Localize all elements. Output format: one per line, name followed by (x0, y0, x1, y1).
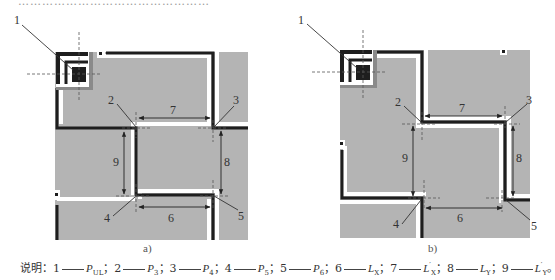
callout-2: 2 (395, 95, 401, 109)
caption-item-2: 2P3； (114, 262, 169, 275)
callout-9: 9 (402, 151, 408, 165)
callout-1: 1 (14, 13, 20, 27)
panel-b: 1 2 3 4 5 6 7 8 9 (298, 13, 537, 238)
callout-8: 8 (224, 155, 230, 169)
callout-4: 4 (104, 211, 110, 225)
caption-item-8: 8LY； (447, 262, 502, 275)
panel-b-label: b) (428, 242, 437, 254)
caption-prefix: 说明： (20, 262, 53, 275)
caption-item-9: 9L′Y。 (502, 262, 555, 275)
fiducial-mark-a (27, 32, 100, 100)
callout-4: 4 (393, 217, 399, 231)
callout-3: 3 (233, 93, 239, 107)
figure-caption: 说明：1PUL；2P3；3P4；4P5；5P6；6LX；7L′X；8LY；9L′… (20, 259, 555, 277)
panel-a: 1 2 3 4 5 6 7 8 9 (14, 13, 248, 240)
callout-3: 3 (526, 93, 532, 107)
callout-2: 2 (108, 93, 114, 107)
fiducial-mark-b (312, 30, 386, 98)
callout-8: 8 (516, 151, 522, 165)
caption-item-5: 5P6； (280, 262, 335, 275)
caption-item-7: 7L′X； (390, 262, 447, 275)
alignment-diagram: 1 2 3 4 5 6 7 8 9 (0, 0, 555, 258)
callout-6: 6 (457, 211, 463, 225)
callout-7: 7 (170, 103, 176, 117)
callout-5: 5 (531, 219, 537, 233)
caption-item-3: 3P4； (170, 262, 225, 275)
caption-items: 1PUL；2P3；3P4；4P5；5P6；6LX；7L′X；8LY；9L′Y。 (53, 262, 555, 275)
callout-6: 6 (168, 211, 174, 225)
panel-a-label: a) (143, 242, 152, 254)
callout-5: 5 (238, 209, 244, 223)
callout-7: 7 (459, 101, 465, 115)
callout-1: 1 (298, 13, 304, 27)
caption-item-6: 6LX； (335, 262, 390, 275)
caption-item-1: 1PUL； (53, 262, 114, 275)
callout-9: 9 (113, 155, 119, 169)
caption-item-4: 4P5； (225, 262, 280, 275)
